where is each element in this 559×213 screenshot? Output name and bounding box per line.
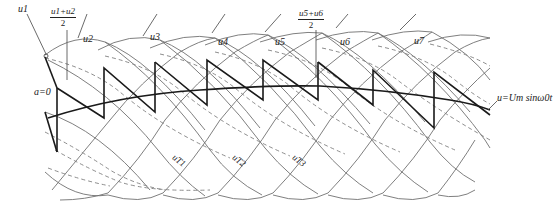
avg56-denominator: 2 xyxy=(298,20,324,30)
label-u7: u7 xyxy=(414,36,424,46)
label-u1: u1 xyxy=(18,4,28,14)
label-u2: u2 xyxy=(83,34,93,44)
reference-sine-curve xyxy=(48,86,490,118)
avg12-denominator: 2 xyxy=(50,18,76,28)
avg12-numerator: u1+u2 xyxy=(50,7,76,18)
thin-phase-arcs xyxy=(45,31,490,200)
label-u4: u4 xyxy=(218,37,228,47)
bold-output-waveform xyxy=(45,57,490,152)
label-alpha-zero: a=0 xyxy=(34,87,51,97)
label-avg-u5-u6: u5+u6 2 xyxy=(298,9,324,30)
label-reference-sine: u=Um sinω0t xyxy=(497,93,552,103)
label-avg-u1-u2: u1+u2 2 xyxy=(50,7,76,28)
label-u6: u6 xyxy=(340,37,350,47)
label-u3: u3 xyxy=(150,32,160,42)
waveform-diagram xyxy=(0,0,559,213)
avg56-numerator: u5+u6 xyxy=(298,9,324,20)
label-u5: u5 xyxy=(275,37,285,47)
